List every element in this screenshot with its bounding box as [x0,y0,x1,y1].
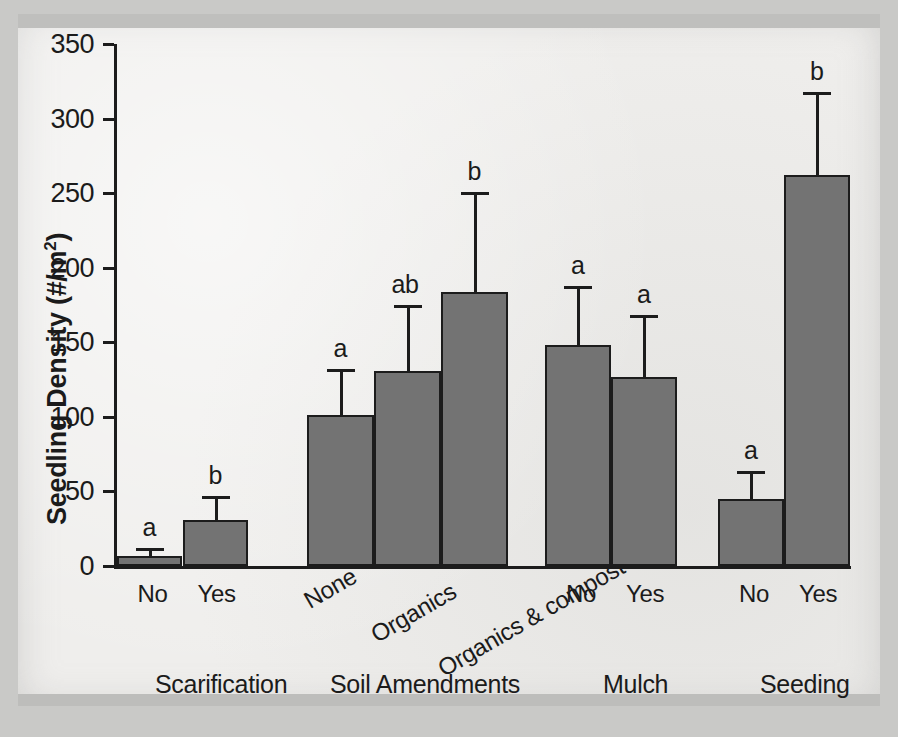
y-tick-mark [103,341,114,344]
error-bar-line [215,496,218,520]
error-bar-cap [202,496,230,499]
error-bar-cap [564,286,592,289]
y-tick-label: 300 [24,106,94,133]
bar [441,292,508,566]
y-tick-mark [103,267,114,270]
y-axis-title-close: ) [42,233,72,242]
y-axis-line [114,44,117,569]
y-tick-mark [103,192,114,195]
significance-label: b [209,463,223,488]
significance-label: a [143,515,157,540]
significance-label: a [637,282,651,307]
significance-label: b [468,159,482,184]
y-tick-mark [103,43,114,46]
error-bar-line [340,369,343,415]
x-category-label: Organics & compost [434,555,628,681]
x-category-label: No [138,582,168,606]
significance-label: a [334,336,348,361]
y-tick-mark [103,490,114,493]
x-category-label: Yes [799,582,837,606]
bar [611,377,677,566]
y-tick-label: 0 [24,553,94,580]
x-axis-line [114,566,851,569]
error-bar-cap [630,315,658,318]
bar [545,345,611,566]
error-bar-cap [136,548,164,551]
bar [374,371,441,566]
y-tick-mark [103,416,114,419]
x-group-label: Mulch [603,672,668,697]
error-bar-line [407,305,410,371]
error-bar-line [816,92,819,176]
x-category-label: Yes [626,582,664,606]
error-bar-line [643,315,646,376]
x-category-label: No [739,582,769,606]
y-tick-mark [103,118,114,121]
x-category-label: No [566,582,596,606]
significance-label: b [810,59,824,84]
y-tick-mark [103,565,114,568]
x-category-label: None [300,564,361,613]
significance-label: a [744,438,758,463]
error-bar-line [474,192,477,292]
error-bar-cap [737,471,765,474]
error-bar-line [750,471,753,499]
y-axis-title: Seedling Density (#/m2) [42,233,71,525]
bar [718,499,784,566]
x-group-label: Seeding [760,672,850,697]
error-bar-line [577,286,580,346]
scanned-page: 050100150200250300350Seedling Density (#… [0,0,898,737]
error-bar-cap [461,192,489,195]
bar [117,556,182,566]
bar [183,520,248,566]
error-bar-cap [803,92,831,95]
significance-label: a [571,253,585,278]
bar [307,415,374,566]
error-bar-cap [394,305,422,308]
bar-chart: 050100150200250300350Seedling Density (#… [0,0,898,737]
y-tick-label: 250 [24,180,94,207]
x-group-label: Soil Amendments [330,672,520,697]
x-category-label: Yes [198,582,236,606]
x-category-label: Organics [367,579,460,647]
x-group-label: Scarification [155,672,287,697]
error-bar-cap [327,369,355,372]
significance-label: ab [392,272,419,297]
y-axis-title-exponent: 2 [41,242,60,251]
y-tick-label: 350 [24,31,94,58]
bar [784,175,850,566]
y-axis-title-text: Seedling Density (#/m [42,251,72,525]
